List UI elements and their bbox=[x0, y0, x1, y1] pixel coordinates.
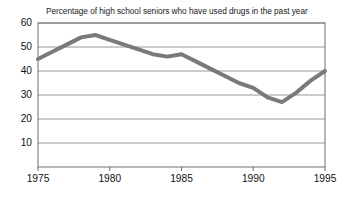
x-tick-marks-group bbox=[38, 167, 325, 171]
x-tick-label-1985: 1985 bbox=[162, 173, 202, 185]
y-tick-label-30: 30 bbox=[8, 90, 32, 100]
y-tick-label-20: 20 bbox=[8, 114, 32, 124]
x-tick-label-1990: 1990 bbox=[233, 173, 273, 185]
x-tick-label-1980: 1980 bbox=[90, 173, 130, 185]
x-tick-label-1995: 1995 bbox=[305, 173, 345, 185]
y-tick-label-50: 50 bbox=[8, 42, 32, 52]
y-tick-label-60: 60 bbox=[8, 18, 32, 28]
y-tick-label-40: 40 bbox=[8, 66, 32, 76]
x-tick-label-1975: 1975 bbox=[18, 173, 58, 185]
y-tick-label-10: 10 bbox=[8, 138, 32, 148]
gridlines-group bbox=[38, 23, 325, 143]
plot-area bbox=[0, 0, 354, 201]
data-series-line bbox=[38, 35, 325, 102]
chart-container: Percentage of high school seniors who ha… bbox=[0, 0, 354, 201]
